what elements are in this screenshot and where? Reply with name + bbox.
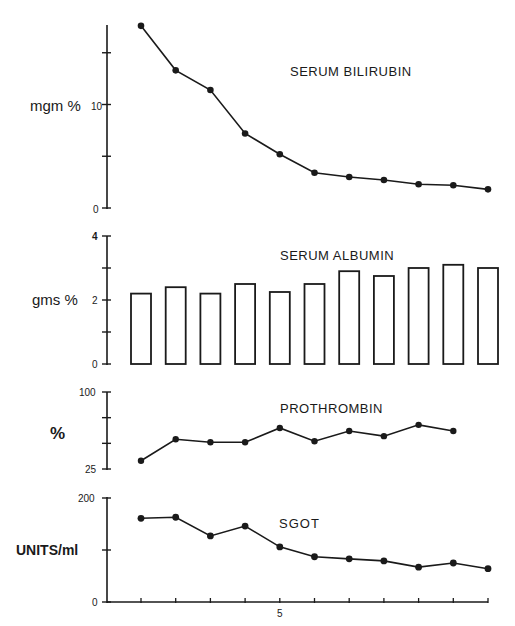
data-point-marker (207, 439, 213, 445)
sgot-axes (102, 497, 488, 603)
serum-albumin-y-axis (102, 236, 111, 365)
albumin-bar (339, 271, 359, 364)
albumin-bar (478, 268, 498, 364)
data-point-marker (277, 425, 283, 431)
albumin-bar (270, 292, 290, 364)
data-point-marker (485, 186, 492, 193)
prothrombin-ylabel: % (50, 424, 65, 443)
data-point-marker (450, 560, 457, 567)
series-line (141, 425, 453, 461)
data-point-marker (415, 181, 422, 188)
sgot-ylabel: UNITS/ml (16, 542, 78, 558)
albumin-bar (305, 284, 325, 364)
serum-albumin-panel: SERUM ALBUMIN gms % 4 2 0 (32, 231, 498, 370)
serum-albumin-bars (131, 265, 498, 364)
data-point-marker (138, 515, 145, 522)
data-point-marker (173, 436, 179, 442)
serum-bilirubin-title: SERUM BILIRUBIN (290, 64, 412, 79)
serum-bilirubin-ylabel: mgm % (30, 97, 81, 114)
data-point-marker (311, 438, 317, 444)
data-point-marker (172, 514, 179, 521)
serum-albumin-title: SERUM ALBUMIN (280, 248, 394, 263)
prothrombin-line (138, 422, 457, 464)
data-point-marker (242, 130, 249, 137)
data-point-marker (276, 543, 283, 550)
ytick-label-10: 10 (91, 101, 103, 112)
data-point-marker (311, 170, 318, 177)
data-point-marker (207, 533, 214, 540)
albumin-bar (374, 276, 394, 364)
data-point-marker (381, 558, 388, 565)
data-point-marker (346, 555, 353, 562)
ytick-label-25: 25 (85, 464, 97, 475)
data-point-marker (415, 422, 421, 428)
ytick-label-100: 100 (79, 387, 96, 398)
albumin-bar (200, 294, 220, 364)
data-point-marker (242, 439, 248, 445)
data-point-marker (242, 523, 249, 530)
liver-function-figure: SERUM BILIRUBIN mgm % 10 0 SERUM ALBUMIN… (0, 0, 515, 626)
data-point-marker (311, 553, 318, 560)
albumin-bar (443, 265, 463, 364)
xtick-label-5: 5 (277, 608, 283, 619)
data-point-marker (450, 428, 456, 434)
chart-canvas: SERUM BILIRUBIN mgm % 10 0 SERUM ALBUMIN… (0, 0, 515, 626)
data-point-marker (207, 87, 214, 94)
data-point-marker (381, 177, 388, 184)
sgot-panel: SGOT UNITS/ml 200 0 5 (16, 493, 491, 619)
sgot-title: SGOT (279, 516, 320, 531)
data-point-marker (277, 151, 284, 158)
ytick-label-2: 2 (92, 295, 98, 306)
albumin-bar (131, 294, 151, 364)
series-line (141, 26, 488, 190)
data-point-marker (415, 564, 422, 571)
albumin-bar (166, 287, 186, 364)
serum-albumin-ylabel: gms % (32, 291, 78, 308)
ytick-label-4: 4 (92, 231, 98, 242)
prothrombin-y-axis (102, 392, 111, 470)
data-point-marker (346, 174, 353, 181)
data-point-marker (138, 23, 145, 30)
albumin-bar (409, 268, 429, 364)
data-point-marker (485, 565, 492, 572)
data-point-marker (346, 428, 352, 434)
prothrombin-panel: PROTHROMBIN % 100 25 (50, 387, 457, 475)
data-point-marker (450, 182, 457, 189)
ytick-label-0: 0 (92, 359, 98, 370)
ytick-label-200: 200 (78, 493, 95, 504)
serum-bilirubin-line (138, 23, 492, 193)
albumin-bar (235, 284, 255, 364)
prothrombin-title: PROTHROMBIN (280, 401, 383, 416)
serum-bilirubin-y-axis (102, 25, 111, 209)
ytick-label-0: 0 (93, 204, 99, 215)
data-point-marker (172, 67, 179, 74)
ytick-label-0: 0 (92, 597, 98, 608)
data-point-marker (138, 458, 144, 464)
serum-bilirubin-panel: SERUM BILIRUBIN mgm % 10 0 (30, 23, 491, 215)
data-point-marker (381, 433, 387, 439)
